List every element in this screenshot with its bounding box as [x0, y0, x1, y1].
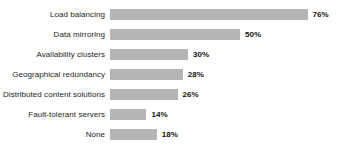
chart-row: Load balancing 76%: [0, 9, 346, 20]
chart-row: Fault-tolerant servers 14%: [0, 109, 346, 120]
bar: [110, 89, 178, 100]
value-label: 18%: [162, 129, 178, 140]
category-label: None: [0, 129, 110, 140]
bar: [110, 9, 308, 20]
value-label: 14%: [151, 109, 167, 120]
bar-track: 26%: [110, 89, 346, 100]
bar: [110, 29, 240, 40]
category-label: Availability clusters: [0, 49, 110, 60]
value-label: 26%: [183, 89, 199, 100]
bar: [110, 129, 157, 140]
chart-row: Geographical redundancy 28%: [0, 69, 346, 80]
category-label: Geographical redundancy: [0, 69, 110, 80]
bar-track: 14%: [110, 109, 346, 120]
bar-track: 18%: [110, 129, 346, 140]
chart-row: Distributed content solutions 26%: [0, 89, 346, 100]
horizontal-bar-chart: Load balancing 76% Data mirroring 50% Av…: [0, 0, 346, 154]
bar: [110, 69, 183, 80]
value-label: 76%: [313, 9, 329, 20]
category-label: Distributed content solutions: [0, 89, 110, 100]
bar: [110, 109, 146, 120]
chart-row: Data mirroring 50%: [0, 29, 346, 40]
value-label: 30%: [193, 49, 209, 60]
value-label: 50%: [245, 29, 261, 40]
category-label: Load balancing: [0, 9, 110, 20]
value-label: 28%: [188, 69, 204, 80]
chart-row: Availability clusters 30%: [0, 49, 346, 60]
bar-track: 50%: [110, 29, 346, 40]
bar-track: 76%: [110, 9, 346, 20]
bar-track: 28%: [110, 69, 346, 80]
chart-row: None 18%: [0, 129, 346, 140]
category-label: Data mirroring: [0, 29, 110, 40]
bar: [110, 49, 188, 60]
category-label: Fault-tolerant servers: [0, 109, 110, 120]
bar-track: 30%: [110, 49, 346, 60]
